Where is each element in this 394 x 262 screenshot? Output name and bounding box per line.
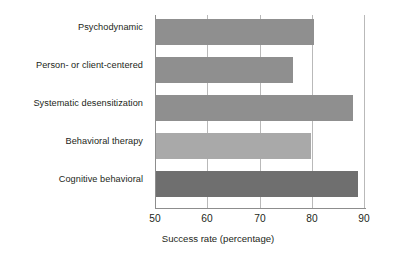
bar-cognitive-behavioral [156,171,358,197]
plot-area [155,15,365,208]
x-tick-label-50: 50 [135,212,175,225]
bar-person-or-client-centered [156,57,293,83]
category-label-psychodynamic: Psychodynamic [0,22,143,32]
x-tick-label-60: 60 [187,212,227,225]
x-tick-label-80: 80 [292,212,332,225]
x-axis-tick-labels: 50 60 70 80 90 [0,212,394,228]
bar-chart: Psychodynamic Person- or client-centered… [0,0,394,262]
x-tick-label-70: 70 [240,212,280,225]
category-label-person-or-client-centered: Person- or client-centered [0,60,143,70]
category-label-behavioral-therapy: Behavioral therapy [0,136,143,146]
x-axis-title: Success rate (percentage) [0,233,394,245]
category-label-systematic-desensitization: Systematic desensitization [0,98,143,108]
bar-psychodynamic [156,19,314,45]
category-axis-labels: Psychodynamic Person- or client-centered… [0,15,150,208]
bar-systematic-desensitization [156,95,353,121]
gridline-90 [364,15,365,208]
bar-behavioral-therapy [156,133,311,159]
x-axis-title-text: Success rate (percentage) [162,233,275,244]
x-tick-label-90: 90 [344,212,384,225]
x-axis-line [155,208,366,209]
category-label-cognitive-behavioral: Cognitive behavioral [0,174,143,184]
